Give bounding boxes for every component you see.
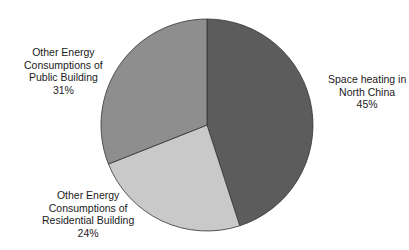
label-line: North China <box>328 86 406 99</box>
label-line: Consumptions of <box>24 59 103 72</box>
label-percent: 24% <box>42 227 134 240</box>
label-residential: Other Energy Consumptions of Residential… <box>42 189 134 239</box>
label-percent: 31% <box>24 84 103 97</box>
label-public: Other Energy Consumptions of Public Buil… <box>24 46 103 96</box>
label-line: Other Energy <box>42 189 134 202</box>
label-line: Space heating in <box>328 73 406 86</box>
label-line: Residential Building <box>42 214 134 227</box>
label-line: Public Building <box>24 71 103 84</box>
label-line: Consumptions of <box>42 202 134 215</box>
label-line: Other Energy <box>24 46 103 59</box>
label-space-heating: Space heating in North China 45% <box>328 73 406 111</box>
label-percent: 45% <box>328 98 406 111</box>
